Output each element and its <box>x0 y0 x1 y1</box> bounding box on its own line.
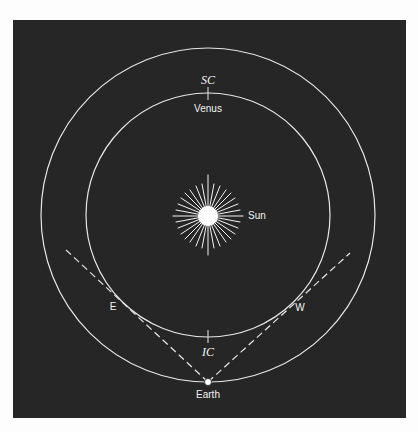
sc-label: SC <box>201 73 216 87</box>
venus-orbit-diagram: SC Venus Sun IC Earth E W <box>0 0 418 432</box>
earth-marker-icon <box>205 379 212 386</box>
earth-label: Earth <box>196 389 220 400</box>
east-elongation-label: E <box>110 301 117 312</box>
venus-label: Venus <box>194 103 222 114</box>
west-elongation-label: W <box>295 302 305 313</box>
east-elongation-line <box>66 250 208 382</box>
sun-label: Sun <box>248 210 266 221</box>
ic-label: IC <box>201 345 215 359</box>
sun-icon <box>173 175 243 255</box>
west-elongation-line <box>208 253 350 382</box>
